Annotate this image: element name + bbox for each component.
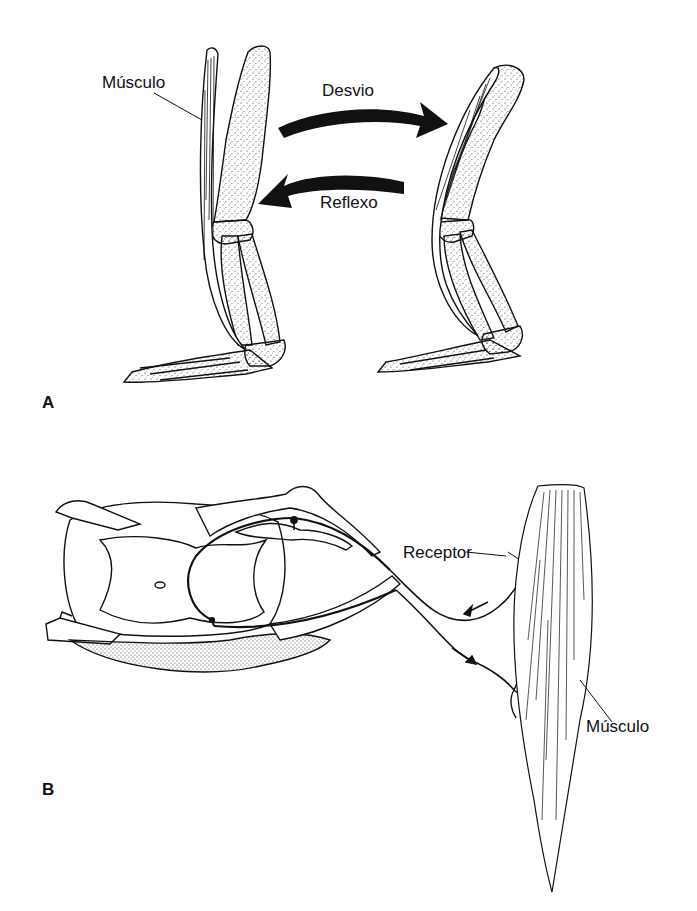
foot-left [124, 350, 272, 382]
deflection-arrow [278, 102, 448, 138]
peripheral-nerve [390, 552, 528, 718]
femur-left [214, 46, 270, 222]
panel-label-a: A [42, 394, 54, 411]
reflex-diagram-artwork [0, 0, 697, 911]
label-muscle-a: Músculo [102, 74, 165, 91]
label-muscle-b: Músculo [586, 718, 649, 735]
receptor-leader [466, 552, 506, 556]
muscle-b [514, 485, 612, 892]
label-deflection: Desvio [322, 82, 374, 99]
ventral-root [270, 576, 400, 640]
leg-extended [124, 46, 285, 382]
label-receptor: Receptor [403, 544, 472, 561]
panel-label-b: B [42, 781, 54, 798]
label-reflex: Reflexo [320, 194, 378, 211]
spinal-cord [46, 487, 400, 672]
